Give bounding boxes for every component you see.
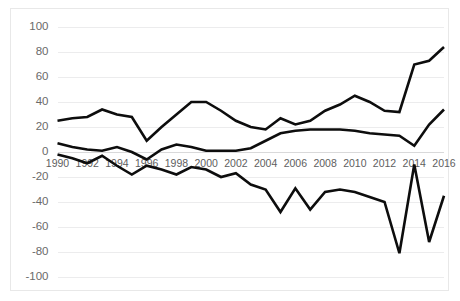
y-axis-tick-label: 100 bbox=[29, 20, 48, 32]
x-axis-tick-label: 2008 bbox=[313, 157, 337, 169]
y-axis-tick-label: -60 bbox=[32, 220, 49, 232]
y-axis-tick-label: -20 bbox=[32, 170, 49, 182]
series-line-lower bbox=[58, 155, 445, 254]
x-axis-tick-label: 1998 bbox=[165, 157, 189, 169]
y-axis-tick-labels: 100806040200-20-40-60-80-100 bbox=[25, 20, 48, 282]
y-axis-tick-label: -40 bbox=[32, 195, 49, 207]
y-axis-tick-label: 60 bbox=[36, 70, 49, 82]
x-axis-tick-label: 2002 bbox=[224, 157, 248, 169]
y-axis-tick-label: -100 bbox=[25, 270, 48, 282]
x-axis-tick-label: 2016 bbox=[432, 157, 456, 169]
y-axis-tick-label: -80 bbox=[32, 245, 49, 257]
y-axis-tick-label: 40 bbox=[36, 95, 49, 107]
x-axis-tick-label: 2012 bbox=[373, 157, 397, 169]
x-axis-tick-label: 1990 bbox=[46, 157, 70, 169]
x-axis-tick-label: 2004 bbox=[254, 157, 278, 169]
y-axis-tick-label: 80 bbox=[36, 45, 49, 57]
x-axis-tick-label: 2010 bbox=[343, 157, 367, 169]
y-axis-tick-label: 0 bbox=[42, 145, 48, 157]
chart-container: 100806040200-20-40-60-80-100 19901992199… bbox=[0, 0, 460, 301]
data-series-group bbox=[58, 47, 445, 253]
y-axis-tick-label: 20 bbox=[36, 120, 49, 132]
line-chart: 100806040200-20-40-60-80-100 19901992199… bbox=[0, 0, 460, 301]
x-axis-tick-label: 2006 bbox=[284, 157, 308, 169]
